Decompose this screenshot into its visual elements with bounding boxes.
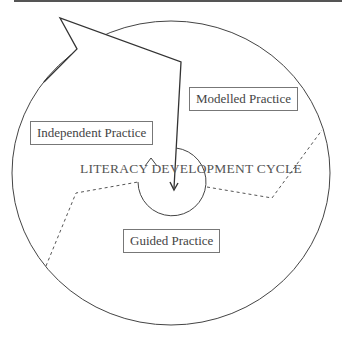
stage-modelled-practice: Modelled Practice [189, 87, 298, 111]
divider-dashed-left [46, 182, 138, 266]
diagram-title: LITERACY DEVELOPMENT CYCLE [80, 161, 302, 177]
stage-independent-practice: Independent Practice [30, 121, 153, 145]
top-rule [14, 0, 342, 2]
stage-guided-practice: Guided Practice [123, 229, 220, 253]
